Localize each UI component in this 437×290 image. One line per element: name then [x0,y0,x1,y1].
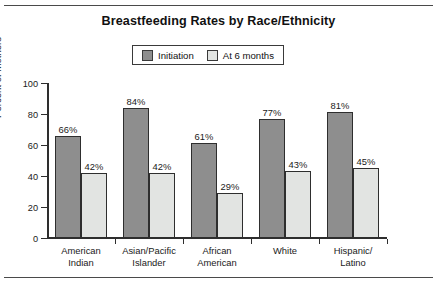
x-axis-category-label: Asian/Pacific Islander [115,245,183,268]
bar-value-label: 42% [153,161,172,172]
bar-initiation: 77% [259,119,285,238]
bar-initiation: 61% [191,143,217,238]
y-axis-tick-label: 80 [28,110,38,120]
y-axis-tick: 80 [41,114,47,115]
bar-at-6-months: 29% [217,193,243,238]
bar-at-6-months: 43% [285,171,311,238]
plot-area: 66%42%84%42%61%29%77%43%81%45% [47,83,387,238]
bar-at-6-months: 42% [81,173,107,238]
legend-label-initiation: Initiation [158,50,194,61]
bar-value-label: 42% [85,161,104,172]
legend-swatch-initiation [142,50,153,61]
bar-at-6-months: 45% [353,168,379,238]
legend-item-initiation: Initiation [142,50,194,61]
chart-figure: Breastfeeding Rates by Race/Ethnicity In… [0,0,437,290]
bar-value-label: 84% [127,96,146,107]
y-axis-tick-label: 40 [28,172,38,182]
x-axis-tick [251,239,252,244]
y-axis-tick: 100 [41,83,47,84]
x-axis-tick [387,239,388,244]
chart-title: Breastfeeding Rates by Race/Ethnicity [0,14,437,28]
x-axis-tick [319,239,320,244]
y-axis-tick: 0 [41,238,47,239]
bar-initiation: 66% [55,136,81,238]
legend-swatch-at-6-months [207,50,218,61]
y-axis-tick: 60 [41,145,47,146]
bar-at-6-months: 42% [149,173,175,238]
y-axis-tick-label: 0 [33,234,38,244]
bar-value-label: 77% [263,107,282,118]
bar-value-label: 81% [331,100,350,111]
bar-value-label: 43% [289,159,308,170]
bottom-divider-rule [4,277,433,278]
x-axis-category-label: American Indian [47,245,115,268]
bar-value-label: 61% [195,131,214,142]
x-axis-category-label: African American [183,245,251,268]
bar-value-label: 29% [221,181,240,192]
top-divider-rule [4,5,433,6]
bar-value-label: 66% [59,124,78,135]
y-axis-title: Percent of Mothers [0,37,3,118]
legend-item-at-6-months: At 6 months [207,50,274,61]
y-axis-tick: 20 [41,207,47,208]
bar-initiation: 81% [327,112,353,238]
y-axis-tick: 40 [41,176,47,177]
x-axis-tick [115,239,116,244]
x-axis-tick [183,239,184,244]
x-axis-category-label: Hispanic/ Latino [319,245,387,268]
chart-legend: Initiation At 6 months [132,45,284,65]
bar-initiation: 84% [123,108,149,238]
x-axis-category-label: White [251,245,319,257]
y-axis-tick-label: 60 [28,141,38,151]
bar-value-label: 45% [357,156,376,167]
legend-label-at-6-months: At 6 months [223,50,274,61]
y-axis-tick-label: 20 [28,203,38,213]
y-axis-tick-label: 100 [23,79,38,89]
